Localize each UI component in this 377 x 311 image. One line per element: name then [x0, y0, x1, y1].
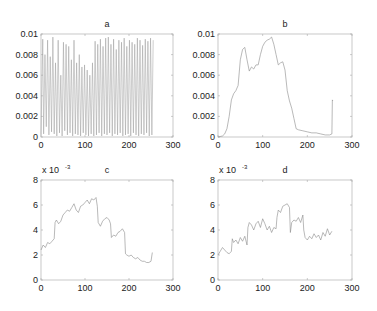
x-tick-label: 100 — [77, 283, 92, 293]
x-tick-label: 100 — [255, 140, 270, 150]
y-tick-label: 6 — [33, 200, 38, 210]
y-tick-label: 2 — [33, 250, 38, 260]
x-tick-label: 300 — [165, 283, 180, 293]
y-tick-label: 4 — [33, 225, 38, 235]
subplot-title: b — [282, 19, 287, 29]
y-tick-label: 4 — [210, 225, 215, 235]
y-tick-label: 0.008 — [192, 50, 215, 60]
x-tick-label: 200 — [121, 283, 136, 293]
subplot-title: d — [282, 165, 287, 175]
y-exponent-label: x 10 — [42, 165, 59, 175]
y-tick-label: 0.006 — [192, 70, 215, 80]
y-tick-label: 2 — [210, 250, 215, 260]
axes-box — [218, 180, 352, 280]
axes-box — [41, 180, 173, 280]
x-tick-label: 100 — [77, 140, 92, 150]
y-tick-label: 0 — [210, 132, 215, 142]
y-exponent-power: -3 — [242, 164, 248, 170]
y-tick-label: 8 — [33, 175, 38, 185]
x-tick-label: 0 — [215, 283, 220, 293]
subplot-title: c — [105, 165, 110, 175]
x-tick-label: 0 — [215, 140, 220, 150]
y-tick-label: 8 — [210, 175, 215, 185]
y-tick-label: 0.004 — [15, 91, 38, 101]
y-exponent-power: -3 — [65, 164, 71, 170]
x-tick-label: 0 — [38, 140, 43, 150]
y-tick-label: 6 — [210, 200, 215, 210]
y-tick-label: 0 — [33, 275, 38, 285]
subplot-b: 010020030000.0020.0040.0060.0080.01b — [192, 19, 359, 150]
x-tick-label: 200 — [300, 283, 315, 293]
subplot-a: 010020030000.0020.0040.0060.0080.01a — [15, 19, 180, 150]
x-tick-label: 300 — [165, 140, 180, 150]
y-exponent-label: x 10 — [219, 165, 236, 175]
y-tick-label: 0.004 — [192, 91, 215, 101]
x-tick-label: 200 — [300, 140, 315, 150]
x-tick-label: 0 — [38, 283, 43, 293]
y-tick-label: 0 — [210, 275, 215, 285]
subplot-title: a — [104, 19, 109, 29]
y-tick-label: 0.002 — [192, 111, 215, 121]
y-tick-label: 0.01 — [197, 29, 215, 39]
y-tick-label: 0.006 — [15, 70, 38, 80]
x-tick-label: 300 — [344, 283, 359, 293]
figure: 010020030000.0020.0040.0060.0080.01a 010… — [0, 0, 377, 311]
subplot-c: 010020030002468cx 10-3 — [33, 164, 181, 293]
y-tick-label: 0.008 — [15, 50, 38, 60]
y-tick-label: 0.01 — [20, 29, 38, 39]
x-tick-label: 300 — [344, 140, 359, 150]
x-tick-label: 200 — [121, 140, 136, 150]
y-tick-label: 0 — [33, 132, 38, 142]
y-tick-label: 0.002 — [15, 111, 38, 121]
x-tick-label: 100 — [255, 283, 270, 293]
subplot-d: 010020030002468dx 10-3 — [210, 164, 360, 293]
